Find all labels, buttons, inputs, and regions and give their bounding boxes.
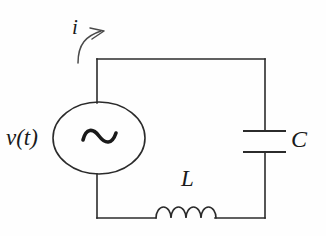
voltage-source-label: v(t): [6, 126, 38, 149]
circuit-schematic-svg: [0, 0, 326, 236]
inductor-label: L: [181, 167, 194, 190]
current-arrow-head-icon: [90, 28, 104, 39]
capacitor-label: C: [291, 127, 307, 151]
inductor-coils: [156, 207, 216, 218]
current-label: i: [72, 17, 78, 38]
ac-sine-icon: [83, 130, 116, 142]
circuit-diagram: v(t) C L i: [0, 0, 326, 236]
